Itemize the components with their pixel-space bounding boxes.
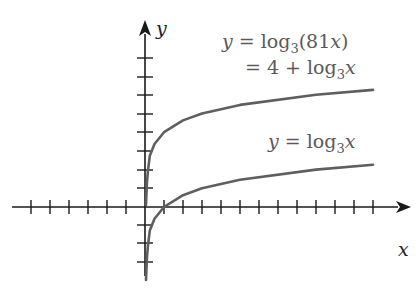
lower-curve-label: y = log3x: [267, 130, 356, 156]
log-graph: y x y = log3(81x) = 4 + log3x y = log3x: [0, 0, 416, 293]
curve-log3-x: [146, 165, 373, 280]
x-axis-arrow-icon: [396, 201, 411, 213]
x-axis-label: x: [398, 238, 409, 260]
upper-curve-label-line2: = 4 + log3x: [245, 56, 356, 82]
upper-curve-label-line1: y = log3(81x): [221, 30, 348, 56]
y-axis-arrow-icon: [139, 20, 151, 36]
y-axis-label: y: [155, 17, 167, 39]
